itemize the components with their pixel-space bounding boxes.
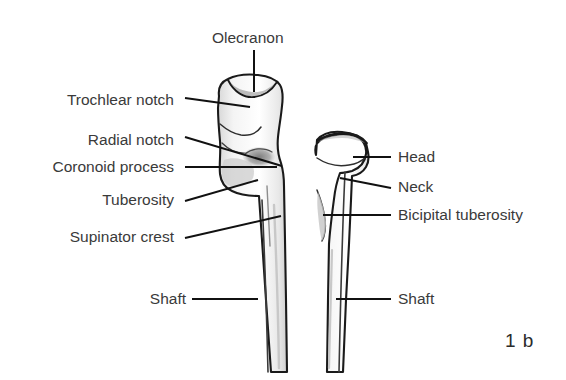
label-olecranon: Olecranon (212, 30, 284, 46)
bicipital-tuberosity-shading (317, 192, 326, 241)
anatomy-figure: Trochlear notch Radial notch Coronoid pr… (0, 0, 566, 380)
label-tuberosity: Tuberosity (102, 192, 174, 208)
label-supinator-crest: Supinator crest (70, 229, 174, 245)
label-neck: Neck (398, 179, 433, 195)
label-radial-notch: Radial notch (88, 132, 174, 148)
label-head: Head (398, 149, 435, 165)
bone-diagram-svg (0, 0, 566, 380)
label-shaft-left: Shaft (150, 291, 186, 307)
figure-number: 1 b (505, 330, 534, 352)
label-trochlear-notch: Trochlear notch (67, 92, 174, 108)
radius-neck-line (317, 157, 366, 166)
label-bicipital-tuberosity: Bicipital tuberosity (398, 207, 523, 223)
radius-bone (315, 132, 368, 372)
leader-lines (185, 50, 391, 299)
label-coronoid-process: Coronoid process (53, 159, 174, 175)
label-shaft-right: Shaft (398, 291, 434, 307)
